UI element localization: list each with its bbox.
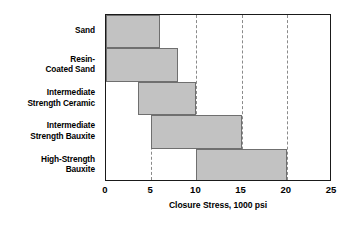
bar-row bbox=[106, 115, 330, 148]
bar-row bbox=[106, 48, 330, 81]
bar bbox=[138, 82, 197, 115]
bar bbox=[106, 48, 178, 81]
x-axis-tick-labels: 0510152025 bbox=[105, 184, 331, 198]
bar-row bbox=[106, 149, 330, 181]
category-label: Sand bbox=[0, 14, 100, 47]
category-label: Intermediate Strength Ceramic bbox=[0, 81, 100, 114]
x-tick-label: 5 bbox=[148, 184, 153, 196]
x-tick-label: 20 bbox=[281, 184, 292, 196]
bar-row bbox=[106, 82, 330, 115]
bar bbox=[196, 149, 286, 181]
closure-stress-bar-chart: SandResin- Coated SandIntermediate Stren… bbox=[0, 0, 348, 225]
category-axis-labels: SandResin- Coated SandIntermediate Stren… bbox=[0, 14, 100, 181]
x-axis-title: Closure Stress, 1000 psi bbox=[105, 200, 331, 210]
category-label: Resin- Coated Sand bbox=[0, 47, 100, 80]
x-tick-label: 0 bbox=[102, 184, 107, 196]
x-tick-label: 25 bbox=[326, 184, 337, 196]
x-tick-label: 10 bbox=[190, 184, 201, 196]
bar bbox=[151, 115, 241, 148]
x-tick-label: 15 bbox=[235, 184, 246, 196]
plot-area bbox=[105, 14, 331, 181]
bar bbox=[106, 15, 160, 48]
bar-row bbox=[106, 15, 330, 48]
category-label: High-Strength Bauxite bbox=[0, 148, 100, 181]
category-label: Intermediate Strength Bauxite bbox=[0, 114, 100, 147]
